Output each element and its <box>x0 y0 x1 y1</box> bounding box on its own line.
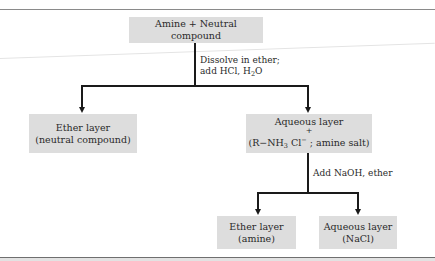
aqueous-layer-nacl-box: Aqueous layer (NaCl) <box>319 216 397 249</box>
step1-line2: add HCl, H2O <box>200 66 280 80</box>
top-rule <box>0 9 435 10</box>
ether-layer-2-content: (amine) <box>238 233 275 245</box>
connector-split-2 <box>257 192 359 194</box>
arrow-down-icon <box>255 209 261 215</box>
step2-instruction: Add NaOH, ether <box>313 168 392 179</box>
connector-right-down <box>307 85 309 108</box>
step1-instruction: Dissolve in ether; add HCl, H2O <box>200 55 280 80</box>
arrow-down-icon <box>355 209 361 215</box>
ether-layer-amine-box: Ether layer (amine) <box>217 216 296 249</box>
aqueous-layer-2-content: (NaCl) <box>342 233 374 245</box>
arrow-down-icon <box>79 107 85 113</box>
ether-layer-1-content: (neutral compound) <box>35 134 131 146</box>
step1-line1: Dissolve in ether; <box>200 55 280 66</box>
connector-start-down <box>194 43 196 86</box>
connector-left2-down <box>257 192 259 210</box>
aqueous-layer-amine-salt-box: Aqueous layer + (R−NH3 Cl− ; amine salt) <box>246 114 372 153</box>
connector-split-1 <box>81 85 309 87</box>
start-box-amine-neutral: Amine + Neutral compound <box>129 17 263 43</box>
connector-aqueous-down <box>307 153 309 193</box>
connector-left-down <box>81 85 83 108</box>
ether-layer-2-title: Ether layer <box>229 221 283 233</box>
ether-layer-neutral-box: Ether layer (neutral compound) <box>29 114 137 153</box>
aqueous-layer-2-title: Aqueous layer <box>324 221 393 233</box>
ether-layer-1-title: Ether layer <box>56 122 110 134</box>
amine-salt-formula: (R−NH3 Cl− ; amine salt) <box>248 134 369 152</box>
arrow-down-icon <box>305 107 311 113</box>
start-label: Amine + Neutral compound <box>129 18 263 42</box>
connector-right2-down <box>357 192 359 210</box>
